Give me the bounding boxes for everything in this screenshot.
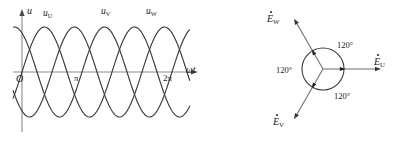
phasor-label-E-U: EU (374, 57, 385, 68)
phasor-line-E-V (297, 69, 324, 115)
phasor-label-E-V-dot (276, 114, 278, 116)
phasor-label-E-V-sub: V (279, 121, 284, 128)
phasor-arrowhead-E-V (294, 113, 299, 119)
x-axis-label: ωt (186, 66, 195, 76)
phasor-arrowhead-E-W (294, 19, 299, 25)
phasor-arrows (294, 19, 381, 119)
x-tick-2pi: 2π (163, 74, 172, 83)
angle-label-top-right: 120° (337, 41, 353, 50)
waveform-panel (13, 9, 198, 132)
phasor-label-E-W-sub: W (273, 18, 279, 25)
phasor-label-E-U-sub: U (380, 61, 385, 68)
phasor-panel (294, 19, 381, 119)
y-axis-arrowhead (19, 9, 24, 16)
phasor-label-E-W: EW (267, 14, 280, 25)
phasor-circle-mark-E-U (340, 67, 346, 71)
phasor-line-E-W (297, 23, 324, 69)
phasor-label-E-U-dot (377, 54, 379, 56)
curve-label-u-W-sub: W (151, 10, 157, 17)
origin-label: O (16, 74, 23, 84)
x-tick-pi: π (74, 74, 79, 83)
figure-canvas (0, 0, 402, 142)
curve-label-u-V-sub: V (106, 10, 111, 17)
angle-label-left: 120° (276, 66, 292, 75)
curve-label-u-W: uW (146, 7, 157, 17)
phasor-label-E-V: EV (273, 117, 284, 128)
curve-label-u-U-sub: U (48, 12, 53, 19)
figure-root: u ωt O π 2π uU uV uW EU EW EV 120° 120° … (0, 0, 402, 142)
angle-label-bottom: 120° (334, 92, 350, 101)
y-axis-label: u (27, 6, 32, 16)
curve-label-u-V: uV (101, 7, 110, 17)
curve-label-u-U: uU (43, 9, 52, 19)
phasor-label-E-W-dot (270, 11, 272, 13)
